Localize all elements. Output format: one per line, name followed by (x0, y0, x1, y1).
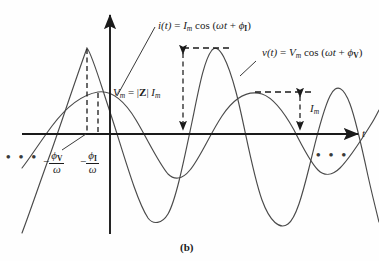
ellipsis-right: • • • (316, 148, 349, 161)
label-voltage-equation: v(t) = Vm cos (ωt + ϕV) (262, 47, 362, 60)
vm-i-sub: m (155, 91, 160, 100)
label-phase-shift-current: −ϕIω (80, 150, 99, 176)
axis-label-t: t (362, 128, 365, 139)
voltage-cos: cos ( (301, 46, 325, 58)
phase-i-numerator: ϕI (86, 150, 99, 164)
phase-i-fraction: ϕIω (86, 150, 99, 176)
plus-sign: + (227, 19, 239, 31)
label-phase-shift-voltage: −ϕVω (43, 150, 64, 176)
voltage-lhs-arg: (t) (267, 46, 277, 58)
label-vm-relation: Vm = |Z| Im (113, 87, 160, 100)
voltage-close-paren: ) (359, 46, 363, 58)
figure-sinusoid-voltage-current: i(t) = Im cos (ωt + ϕI) v(t) = Vm cos (ω… (0, 0, 379, 261)
omega-symbol: ω (216, 19, 224, 31)
vm-v: V (113, 86, 120, 98)
current-cos: cos ( (192, 19, 216, 31)
waveform-plot (0, 0, 379, 261)
current-lhs-arg: (t) (161, 19, 171, 31)
leader-line-voltage-label (240, 61, 256, 76)
omega-symbol-v: ω (325, 46, 333, 58)
phase-v-denominator: ω (49, 164, 64, 176)
im-i-sub: m (314, 107, 319, 116)
leader-line-phase-v (62, 134, 86, 150)
phase-i-denominator: ω (86, 164, 99, 176)
ellipsis-left: • • • (6, 150, 39, 163)
voltage-amplitude: V (289, 46, 296, 58)
phase-v-fraction: ϕVω (49, 150, 64, 176)
voltage-eq-sign: = (277, 46, 289, 58)
phase-v-numerator: ϕV (49, 150, 64, 164)
current-close-paren: ) (247, 19, 251, 31)
figure-caption: (b) (180, 241, 193, 253)
label-current-equation: i(t) = Im cos (ωt + ϕI) (158, 20, 251, 33)
current-eq-sign: = (171, 19, 183, 31)
plus-sign-v: + (336, 46, 348, 58)
vm-eq-bar: = | (125, 86, 139, 98)
label-im-amplitude: Im (310, 103, 319, 116)
